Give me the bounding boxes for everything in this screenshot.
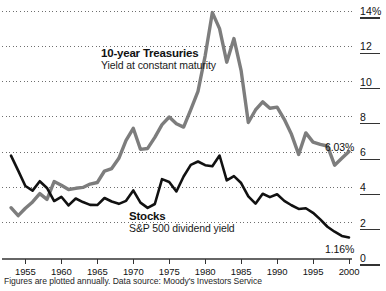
x-axis-tick-label: 2000 [329,266,369,277]
y-axis-tick-label: 12 [360,40,372,52]
x-axis-tick-label: 1995 [293,266,333,277]
series-label-stocks: Stocks S&P 500 dividend yield [129,210,235,235]
y-axis-tick-label: 8 [360,111,366,123]
series-label-treasuries-title: 10-year Treasuries [101,47,216,60]
series-label-stocks-subtitle: S&P 500 dividend yield [129,223,235,235]
y-axis-tick-label: 0 [360,252,366,264]
y-axis-tick-label: 4 [360,181,366,193]
chart-container: 14%121086420 195519601965197019751980198… [0,0,386,291]
chart-footnote: Figures are plotted annually. Data sourc… [4,276,262,286]
x-axis-tick-label: 1990 [257,266,297,277]
series-label-treasuries-subtitle: Yield at constant maturity [101,60,216,72]
series-label-stocks-title: Stocks [129,210,235,223]
series-label-treasuries: 10-year Treasuries Yield at constant mat… [101,47,216,72]
y-axis-tick-label: 10 [360,76,372,88]
annotation-stocks-end-value: 1.16% [325,243,354,255]
y-axis-tick-label: 6 [360,146,366,158]
y-axis-tick-label: 14% [360,5,381,17]
y-axis-tick-label: 2 [360,217,366,229]
annotation-treasuries-end-value: 6.03% [325,141,354,153]
